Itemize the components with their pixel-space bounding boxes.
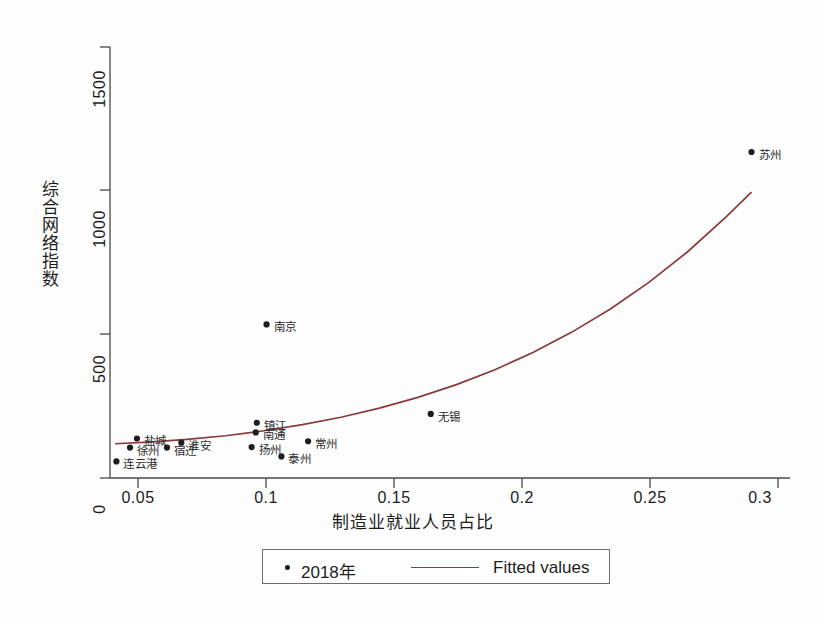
x-tick-label-02: 0.2: [487, 489, 557, 507]
x-tick-marks: [138, 478, 778, 488]
x-axis-title: 制造业就业人员占比: [0, 508, 825, 533]
legend-label-scatter: 2018年: [301, 558, 356, 583]
x-tick-label-01: 0.1: [231, 489, 301, 507]
x-tick-label-015: 0.15: [359, 489, 429, 507]
scatter-point: [263, 321, 269, 327]
chart-legend: 2018年 Fitted values: [262, 549, 610, 584]
point-label: 苏州: [759, 146, 782, 162]
y-tick-label-500: 500: [91, 339, 109, 399]
x-tick-label-03: 0.3: [725, 489, 795, 507]
scatter-point: [748, 149, 754, 155]
legend-label-line: Fitted values: [493, 558, 589, 578]
fitted-values-line: [115, 192, 751, 444]
scatter-point: [113, 458, 119, 464]
point-label: 常州: [315, 435, 338, 451]
chart-figure: 综合网络指数 0 500 1000 1500 0.05 0.1 0.15 0.2…: [0, 0, 825, 625]
point-label: 扬州: [259, 441, 282, 457]
scatter-point: [254, 420, 260, 426]
scatter-point: [305, 438, 311, 444]
point-label: 淮安: [188, 437, 211, 453]
scatter-point: [253, 429, 259, 435]
legend-line-marker-icon: [411, 567, 479, 568]
point-label: 无锡: [438, 408, 461, 424]
point-label: 连云港: [123, 455, 157, 471]
x-tick-label-005: 0.05: [103, 489, 173, 507]
scatter-point: [428, 411, 434, 417]
scatter-point: [127, 445, 133, 451]
scatter-point: [249, 444, 255, 450]
point-label: 泰州: [288, 450, 311, 466]
scatter-points-group: [113, 149, 754, 465]
point-label: 南京: [274, 318, 297, 334]
legend-circle-marker-icon: [285, 565, 290, 570]
point-label: 镇江: [264, 417, 287, 433]
point-label: 盐城: [144, 432, 167, 448]
x-tick-label-025: 0.25: [615, 489, 685, 507]
y-axis-title: 综合网络指数: [30, 180, 58, 288]
y-tick-label-1000: 1000: [91, 199, 109, 259]
y-tick-label-1500: 1500: [91, 59, 109, 119]
